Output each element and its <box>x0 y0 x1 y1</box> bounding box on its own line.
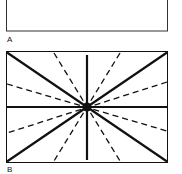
panel-a <box>7 0 168 31</box>
diagram-canvas <box>0 0 182 174</box>
panel-b <box>7 52 168 163</box>
panel-a-rectangle <box>7 0 168 31</box>
center-point <box>83 103 92 112</box>
panel-a-label: A <box>7 36 12 44</box>
panel-b-label: B <box>7 166 12 174</box>
